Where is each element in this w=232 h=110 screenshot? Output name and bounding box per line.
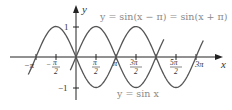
svg-text:2: 2 [134, 67, 138, 76]
svg-text:π: π [93, 58, 97, 67]
svg-text:3π: 3π [129, 58, 138, 67]
x-axis-label: x [220, 58, 226, 70]
annotation-shifted-sine: y = sin(x − π) = sin(x + π) [99, 11, 227, 22]
svg-text:2: 2 [94, 67, 98, 76]
svg-text:2: 2 [174, 67, 178, 76]
svg-text:π: π [53, 58, 57, 67]
x-tick-label-3pi-over-2: 3π 2 [129, 58, 142, 76]
y-axis-arrow-icon [73, 5, 79, 13]
x-tick-label-pi-over-2: π 2 [92, 58, 100, 76]
x-tick-label-pi: π [113, 58, 118, 68]
sine-shift-chart: y x 1 −1 −π − π 2 π 2 π 3π 2 5π 2 3π y =… [0, 0, 232, 110]
y-tick-label-neg1: −1 [58, 83, 68, 93]
x-tick-label-5pi-over-2: 5π 2 [170, 58, 182, 76]
y-tick-label-1: 1 [64, 22, 69, 32]
annotation-sine: y = sin x [116, 88, 159, 99]
svg-text:5π: 5π [170, 58, 178, 67]
svg-text:2: 2 [54, 67, 58, 76]
x-tick-label-3pi: 3π [194, 59, 204, 69]
svg-text:−: − [46, 60, 51, 69]
x-tick-label-neg-pi-over-2: − π 2 [46, 58, 60, 76]
y-axis-label: y [81, 3, 87, 15]
x-tick-label-neg-pi: −π [24, 60, 35, 70]
